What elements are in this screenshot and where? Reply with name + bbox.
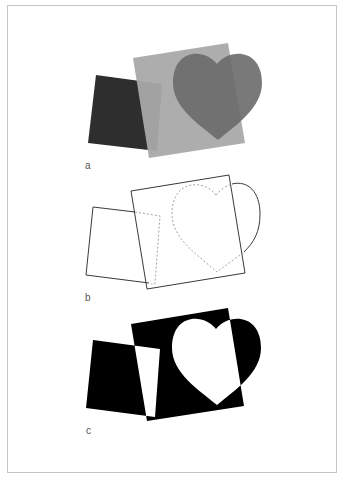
panel-label-c: c <box>86 425 91 436</box>
xor-combined-shape <box>86 308 261 421</box>
figure-canvas <box>0 0 347 483</box>
panel-label-b: b <box>85 292 91 303</box>
heart-hidden-outline <box>172 184 244 272</box>
small-square-hidden-edge <box>135 212 160 284</box>
panel-a <box>88 43 262 158</box>
panel-b <box>86 175 260 289</box>
panel-label-a: a <box>85 160 91 171</box>
panel-c <box>86 308 261 421</box>
large-square-outline <box>131 175 245 289</box>
